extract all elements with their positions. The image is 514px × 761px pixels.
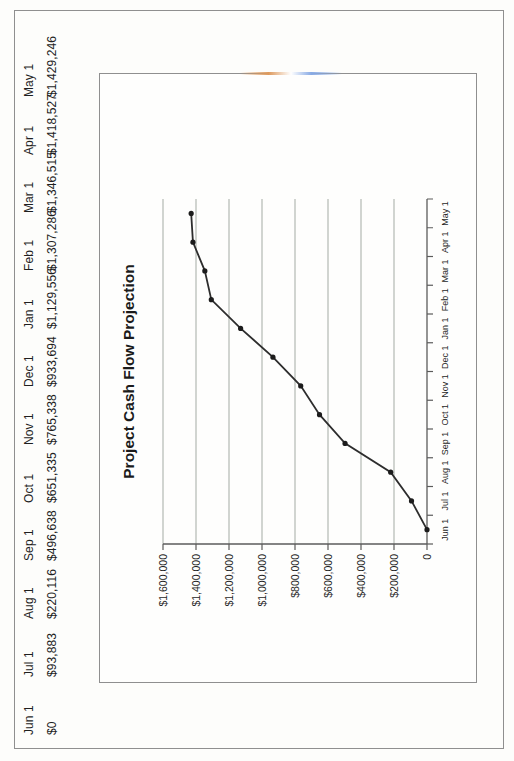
table-month-cell: Feb 1	[22, 213, 36, 271]
table-value-row: $0$93,883$220,116$496,638$651,335$765,33…	[45, 39, 59, 735]
data-point-marker	[202, 268, 207, 273]
table-month-cell: Aug 1	[22, 561, 36, 619]
x-tick-label: Jan 1	[440, 317, 450, 339]
table-month-cell: Nov 1	[22, 387, 36, 445]
x-tick-label: Nov 1	[440, 374, 450, 398]
y-tick-label: $400,000	[355, 554, 367, 598]
x-tick-label: Sep 1	[440, 432, 450, 456]
table-value-cell: $1,418,527	[45, 97, 59, 155]
table-value-cell: $1,429,246	[45, 39, 59, 97]
table-value-cell: $220,116	[45, 561, 59, 619]
data-point-marker	[189, 211, 194, 216]
table-value-cell: $496,638	[45, 503, 59, 561]
table-value-cell: $1,307,286	[45, 213, 59, 271]
table-month-cell: Mar 1	[22, 155, 36, 213]
data-point-marker	[388, 470, 393, 475]
table-value-cell: $651,335	[45, 445, 59, 503]
data-point-marker	[409, 498, 414, 503]
data-point-marker	[298, 383, 303, 388]
x-tick-label: Mar 1	[440, 259, 450, 282]
scanned-report-page: Jun 1Jul 1Aug 1Sep 1Oct 1Nov 1Dec 1Jan 1…	[0, 0, 514, 761]
cashflow-line-chart: 0$200,000$400,000$600,000$800,000$1,000,…	[100, 74, 476, 682]
y-tick-label: $600,000	[322, 554, 334, 598]
table-value-cell: $1,346,515	[45, 155, 59, 213]
x-tick-label: Jul 1	[440, 491, 450, 510]
table-value-cell: $765,338	[45, 387, 59, 445]
rotated-page-content: Jun 1Jul 1Aug 1Sep 1Oct 1Nov 1Dec 1Jan 1…	[0, 0, 514, 761]
table-month-cell: Sep 1	[22, 503, 36, 561]
scan-artifact-streak	[240, 72, 342, 76]
table-value-cell: $93,883	[45, 619, 59, 677]
data-point-marker	[424, 527, 429, 532]
data-point-marker	[238, 326, 243, 331]
data-point-marker	[317, 412, 322, 417]
data-point-marker	[342, 441, 347, 446]
y-tick-label: $800,000	[289, 554, 301, 598]
y-tick-label: $200,000	[388, 554, 400, 598]
table-month-cell: Apr 1	[22, 97, 36, 155]
data-point-marker	[209, 297, 214, 302]
y-tick-label: $1,400,000	[190, 554, 202, 607]
table-value-cell: $933,694	[45, 329, 59, 387]
x-tick-label: Apr 1	[440, 231, 450, 253]
table-value-cell: $1,129,556	[45, 271, 59, 329]
table-month-cell: Jun 1	[22, 677, 36, 735]
table-month-cell: Jul 1	[22, 619, 36, 677]
x-tick-label: Oct 1	[440, 404, 450, 426]
y-tick-label: 0	[421, 554, 433, 560]
table-month-cell: May 1	[22, 39, 36, 97]
y-tick-label: $1,000,000	[256, 554, 268, 607]
x-tick-label: Aug 1	[440, 460, 450, 484]
data-point-marker	[190, 240, 195, 245]
chart-frame: Project Cash Flow Projection 0$200,000$4…	[99, 73, 477, 683]
table-month-cell: Oct 1	[22, 445, 36, 503]
x-tick-label: Dec 1	[440, 345, 450, 369]
data-point-marker	[270, 355, 275, 360]
x-tick-label: Feb 1	[440, 288, 450, 311]
y-tick-label: $1,200,000	[223, 554, 235, 607]
table-value-cell: $0	[45, 677, 59, 735]
table-month-cell: Dec 1	[22, 329, 36, 387]
x-tick-label: Jun 1	[440, 519, 450, 541]
cashflow-line	[191, 213, 427, 529]
table-month-cell: Jan 1	[22, 271, 36, 329]
x-tick-label: May 1	[440, 201, 450, 226]
table-month-row: Jun 1Jul 1Aug 1Sep 1Oct 1Nov 1Dec 1Jan 1…	[22, 39, 36, 735]
y-tick-label: $1,600,000	[157, 554, 169, 607]
